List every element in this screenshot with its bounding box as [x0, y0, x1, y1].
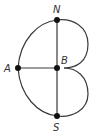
label-a: A: [3, 63, 11, 74]
edge-a-n-curve: [18, 20, 57, 68]
edges: [18, 20, 88, 117]
label-b: B: [61, 55, 68, 66]
graph-diagram: N A B S: [0, 0, 94, 138]
node-b: [54, 65, 60, 71]
label-n: N: [53, 4, 61, 15]
edge-a-s-curve: [18, 68, 57, 116]
node-s: [54, 113, 60, 119]
edge-b-s-curve: [57, 68, 88, 116]
label-s: S: [53, 122, 60, 133]
node-n: [54, 17, 60, 23]
node-a: [15, 65, 21, 71]
